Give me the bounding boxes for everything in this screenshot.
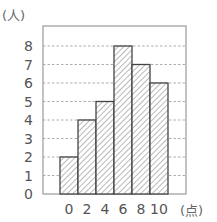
- x-tick-label: 6: [119, 201, 128, 217]
- y-tick-label: 3: [24, 131, 33, 147]
- x-tick-label: 0: [65, 201, 74, 217]
- y-tick-label: 4: [24, 112, 33, 128]
- x-tick-label: 10: [150, 201, 168, 217]
- y-axis-ticks: 012345678: [24, 38, 33, 202]
- histogram-bar: [132, 65, 150, 195]
- x-tick-label: 4: [101, 201, 110, 217]
- x-axis-ticks: 0246810: [65, 201, 168, 217]
- histogram-bar: [114, 46, 132, 194]
- histogram-chart: 012345678 0246810 (人) (点): [0, 0, 217, 222]
- histogram-bar: [150, 83, 168, 194]
- histogram-bar: [60, 157, 78, 194]
- y-tick-label: 7: [24, 57, 33, 73]
- y-axis-unit-label: (人): [2, 8, 25, 23]
- y-tick-label: 6: [24, 75, 33, 91]
- y-tick-label: 2: [24, 149, 33, 165]
- histogram-bar: [96, 102, 114, 195]
- x-tick-label: 2: [83, 201, 92, 217]
- y-tick-label: 5: [24, 94, 33, 110]
- histogram-bar: [78, 120, 96, 194]
- y-tick-label: 8: [24, 38, 33, 54]
- y-tick-label: 0: [24, 186, 33, 202]
- y-tick-label: 1: [24, 168, 33, 184]
- x-tick-label: 8: [137, 201, 146, 217]
- x-axis-unit-label: (点): [180, 203, 203, 218]
